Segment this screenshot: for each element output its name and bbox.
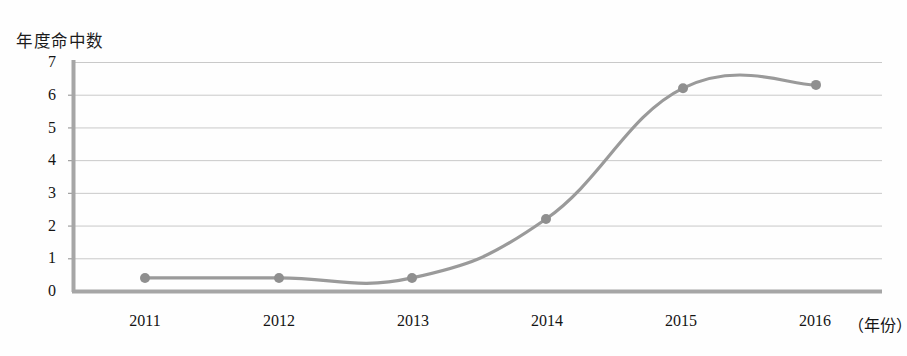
data-point-2011[interactable] (140, 273, 150, 283)
gridlines-group (73, 63, 882, 259)
data-point-2014[interactable] (541, 214, 551, 224)
data-point-2016[interactable] (811, 80, 821, 90)
data-point-2012[interactable] (274, 273, 284, 283)
data-point-2013[interactable] (407, 273, 417, 283)
data-point-2015[interactable] (678, 83, 688, 93)
plot-area (0, 0, 907, 356)
chart-figure: 年度命中数 7 6 5 4 3 2 1 0 2011 2012 2013 201… (0, 0, 907, 356)
data-markers-group (140, 80, 821, 283)
data-series-line (145, 75, 816, 283)
